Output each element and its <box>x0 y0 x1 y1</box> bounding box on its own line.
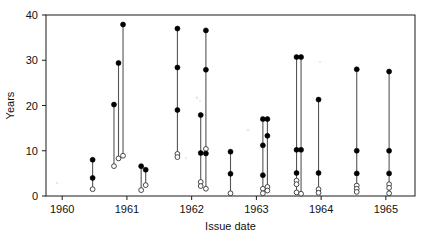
data-point-group <box>299 55 304 197</box>
filled-circle-marker <box>90 157 95 162</box>
data-point-group <box>143 167 148 187</box>
y-tick-label: 40 <box>26 9 38 21</box>
filled-circle-marker <box>387 69 392 74</box>
open-circle-marker <box>316 190 321 195</box>
filled-circle-marker <box>203 67 208 72</box>
open-circle-marker <box>198 184 203 189</box>
open-circle-marker <box>354 190 359 195</box>
scan-artifact-specks <box>56 61 321 184</box>
x-tick-label: 1965 <box>374 203 398 215</box>
filled-circle-marker <box>294 170 299 175</box>
open-circle-marker <box>387 191 392 196</box>
filled-circle-marker <box>116 60 121 65</box>
filled-circle-marker <box>111 102 116 107</box>
scan-speck <box>319 61 321 63</box>
x-tick-label: 1960 <box>50 203 74 215</box>
filled-circle-marker <box>121 22 126 27</box>
scan-speck <box>185 157 187 159</box>
data-point-group <box>139 164 144 193</box>
data-point-group <box>116 60 121 160</box>
open-circle-marker <box>387 185 392 190</box>
x-axis-ticks: 196019611962196319641965 <box>50 196 398 215</box>
scan-speck <box>196 97 199 100</box>
open-circle-marker <box>228 191 233 196</box>
data-series-layer <box>90 22 391 196</box>
filled-circle-marker <box>354 148 359 153</box>
filled-circle-marker <box>143 167 148 172</box>
filled-circle-marker <box>299 147 304 152</box>
x-tick-label: 1964 <box>309 203 333 215</box>
filled-circle-marker <box>228 171 233 176</box>
filled-circle-marker <box>316 97 321 102</box>
open-circle-marker <box>265 188 270 193</box>
scan-speck <box>56 182 58 184</box>
data-point-group <box>121 22 126 158</box>
y-axis-ticks: 010203040 <box>26 9 46 202</box>
filled-circle-marker <box>265 133 270 138</box>
filled-circle-marker <box>228 149 233 154</box>
data-point-group <box>260 117 265 196</box>
data-point-group <box>265 117 270 193</box>
filled-circle-marker <box>198 113 203 118</box>
x-tick-label: 1962 <box>179 203 203 215</box>
filled-circle-marker <box>203 28 208 33</box>
x-tick-label: 1961 <box>115 203 139 215</box>
filled-circle-marker <box>260 143 265 148</box>
open-circle-marker <box>260 191 265 196</box>
scan-speck <box>247 129 250 132</box>
data-point-group <box>90 157 95 191</box>
filled-circle-marker <box>265 117 270 122</box>
data-point-group <box>354 67 359 195</box>
open-circle-marker <box>112 164 117 169</box>
filled-circle-marker <box>387 148 392 153</box>
open-circle-marker <box>121 153 126 158</box>
open-circle-marker <box>139 188 144 193</box>
y-axis-title: Years <box>4 91 16 119</box>
open-circle-marker <box>204 186 209 191</box>
filled-circle-marker <box>175 65 180 70</box>
open-circle-marker <box>143 183 148 188</box>
data-point-group <box>316 97 321 195</box>
filled-circle-marker <box>354 67 359 72</box>
data-point-group <box>228 149 233 196</box>
filled-circle-marker <box>175 26 180 31</box>
open-circle-marker <box>204 147 209 152</box>
filled-circle-marker <box>299 55 304 60</box>
filled-circle-marker <box>90 175 95 180</box>
data-point-group <box>387 69 392 196</box>
scan-speck <box>199 100 201 102</box>
filled-circle-marker <box>175 108 180 113</box>
open-circle-marker <box>116 156 121 161</box>
x-tick-label: 1963 <box>244 203 268 215</box>
filled-circle-marker <box>316 170 321 175</box>
data-point-group <box>294 55 299 195</box>
open-circle-marker <box>90 187 95 192</box>
open-circle-marker <box>294 182 299 187</box>
filled-circle-marker <box>139 164 144 169</box>
chart-container: 010203040 196019611962196319641965 Years… <box>0 0 423 241</box>
filled-circle-marker <box>260 173 265 178</box>
filled-circle-marker <box>203 151 208 156</box>
open-circle-marker <box>294 190 299 195</box>
y-tick-label: 30 <box>26 54 38 66</box>
x-axis-title: Issue date <box>205 220 256 232</box>
data-point-group <box>203 28 208 191</box>
filled-circle-marker <box>198 151 203 156</box>
y-tick-label: 10 <box>26 145 38 157</box>
y-tick-label: 20 <box>26 100 38 112</box>
filled-circle-marker <box>387 171 392 176</box>
open-circle-marker <box>175 155 180 160</box>
issue-date-years-scatter-chart: 010203040 196019611962196319641965 Years… <box>0 0 423 241</box>
data-point-group <box>198 113 203 189</box>
open-circle-marker <box>299 191 304 196</box>
filled-circle-marker <box>354 171 359 176</box>
y-tick-label: 0 <box>32 190 38 202</box>
data-point-group <box>175 26 180 159</box>
